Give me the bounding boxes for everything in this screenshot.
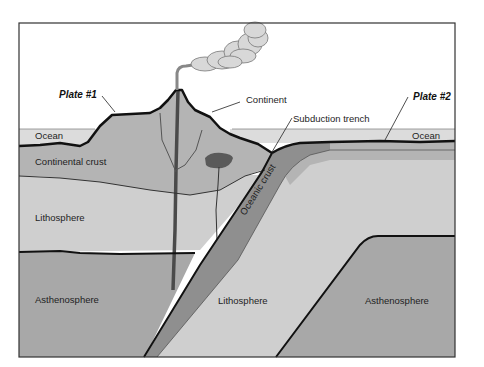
- label-asthenosphere-right: Asthenosphere: [365, 295, 429, 306]
- label-ocean-right: Ocean: [412, 130, 440, 141]
- label-lithosphere-center: Lithosphere: [218, 295, 268, 306]
- label-continental-crust: Continental crust: [35, 156, 107, 167]
- label-lithosphere-left: Lithosphere: [35, 212, 85, 223]
- label-subduction-trench: Subduction trench: [293, 113, 370, 124]
- label-asthenosphere-left: Asthenosphere: [35, 294, 99, 305]
- label-continent: Continent: [246, 94, 287, 105]
- label-plate2: Plate #2: [413, 91, 451, 102]
- subduction-diagram: Plate #1 Plate #2 Continent Subduction t…: [0, 0, 484, 367]
- label-plate1: Plate #1: [59, 89, 97, 100]
- label-ocean-left: Ocean: [35, 130, 63, 141]
